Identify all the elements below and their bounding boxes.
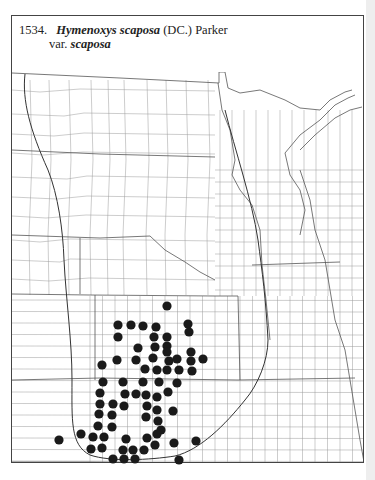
occurrence-dot bbox=[152, 392, 161, 401]
occurrence-dot bbox=[140, 364, 149, 373]
occurrence-dot bbox=[112, 355, 121, 364]
occurrence-dot bbox=[142, 433, 151, 442]
occurrence-dot bbox=[151, 322, 160, 331]
occurrence-dot bbox=[108, 399, 117, 408]
occurrence-dot bbox=[54, 435, 63, 444]
occurrence-dot bbox=[150, 440, 159, 449]
occurrence-dot bbox=[94, 409, 103, 418]
occurrence-dot bbox=[187, 366, 196, 375]
occurrence-dot bbox=[174, 365, 183, 374]
occurrence-dot bbox=[162, 332, 171, 341]
occurrence-dot bbox=[150, 342, 159, 351]
occurrence-dot bbox=[141, 390, 150, 399]
occurrence-dot bbox=[97, 360, 106, 369]
occurrence-dot bbox=[198, 354, 207, 363]
occurrence-dot bbox=[169, 438, 178, 447]
occurrence-dot bbox=[138, 321, 147, 330]
occurrence-dot bbox=[126, 320, 135, 329]
occurrence-dot bbox=[141, 412, 150, 421]
occurrence-dot bbox=[186, 347, 195, 356]
occurrence-dot bbox=[162, 301, 171, 310]
occurrence-dot bbox=[88, 432, 97, 441]
occurrence-dot bbox=[121, 434, 130, 443]
occurrence-dot bbox=[162, 347, 171, 356]
occurrence-dot bbox=[130, 454, 139, 463]
occurrence-dot bbox=[107, 410, 116, 419]
occurrence-dot bbox=[183, 319, 192, 328]
occurrence-dot bbox=[128, 445, 137, 454]
occurrence-dot bbox=[86, 444, 95, 453]
occurrence-dot bbox=[184, 327, 193, 336]
occurrence-dot bbox=[93, 421, 102, 430]
occurrence-dot bbox=[113, 320, 122, 329]
occurrence-dot bbox=[118, 377, 127, 386]
occurrence-dot bbox=[152, 429, 161, 438]
occurrence-dot bbox=[191, 436, 200, 445]
occurrence-dot bbox=[118, 445, 127, 454]
occurrence-dot bbox=[154, 377, 163, 386]
occurrence-dot bbox=[107, 422, 116, 431]
occurrence-dot bbox=[76, 429, 85, 438]
occurrence-dot bbox=[149, 332, 158, 341]
occurrence-dot bbox=[142, 401, 151, 410]
occurrence-dot bbox=[95, 388, 104, 397]
occurrence-dot bbox=[168, 406, 177, 415]
occurrence-dot bbox=[152, 405, 161, 414]
occurrence-dot bbox=[131, 355, 140, 364]
occurrence-dot bbox=[172, 354, 181, 363]
occurrence-dot bbox=[163, 387, 172, 396]
occurrence-dot bbox=[95, 399, 104, 408]
occurrence-dot bbox=[113, 332, 122, 341]
distribution-map bbox=[0, 0, 375, 480]
occurrence-dot bbox=[119, 401, 128, 410]
occurrence-dot bbox=[164, 356, 173, 365]
occurrence-dot bbox=[119, 454, 128, 463]
occurrence-dot bbox=[148, 353, 157, 362]
occurrence-dot bbox=[138, 377, 147, 386]
occurrence-dot bbox=[186, 356, 195, 365]
occurrence-dot bbox=[120, 389, 129, 398]
occurrence-dot bbox=[97, 443, 106, 452]
occurrence-dot bbox=[99, 432, 108, 441]
occurrence-dot bbox=[131, 389, 140, 398]
occurrence-dot bbox=[162, 365, 171, 374]
occurrence-dot bbox=[108, 454, 117, 463]
occurrence-dot bbox=[133, 343, 142, 352]
occurrence-dots bbox=[54, 301, 207, 464]
occurrence-dot bbox=[172, 378, 181, 387]
occurrence-dot bbox=[139, 445, 148, 454]
occurrence-dot bbox=[152, 365, 161, 374]
occurrence-dot bbox=[153, 416, 162, 425]
occurrence-dot bbox=[174, 455, 183, 464]
occurrence-dot bbox=[98, 377, 107, 386]
